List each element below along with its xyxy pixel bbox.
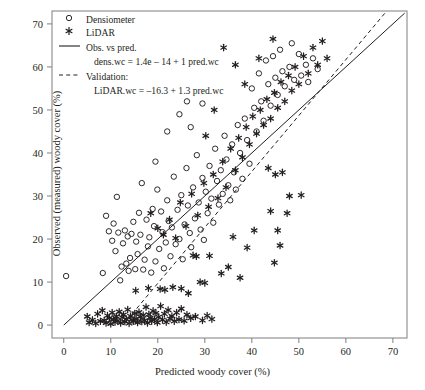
svg-text:70: 70 [33, 19, 44, 30]
legend-equation-validation: LiDAR.wc = –16.3 + 1.3 pred.wc [94, 85, 223, 96]
svg-text:30: 30 [200, 346, 211, 357]
y-axis-label: Observed (measured) woody cover (%) [51, 14, 62, 334]
svg-text:20: 20 [33, 234, 44, 245]
svg-text:40: 40 [33, 148, 44, 159]
svg-text:0: 0 [38, 320, 43, 331]
legend-equation-densiometer: dens.wc = 1.4e – 14 + 1 pred.wc [94, 56, 219, 67]
svg-text:20: 20 [153, 346, 164, 357]
legend-label-validation: Validation: [86, 71, 128, 82]
legend-markers [59, 15, 80, 75]
legend-label-obs-vs-pred: Obs. vs pred. [86, 42, 137, 53]
x-axis-label: Predicted woody cover (%) [0, 366, 425, 377]
svg-text:50: 50 [33, 105, 44, 116]
scatter-plot-figure: 010203040506070010203040506070 Predicted… [0, 0, 425, 390]
legend-label-densiometer: Densiometer [86, 14, 135, 25]
svg-text:60: 60 [341, 346, 352, 357]
svg-text:50: 50 [294, 346, 305, 357]
svg-text:30: 30 [33, 191, 44, 202]
svg-text:0: 0 [61, 346, 66, 357]
svg-text:10: 10 [33, 277, 44, 288]
svg-text:10: 10 [106, 346, 117, 357]
svg-text:40: 40 [247, 346, 258, 357]
svg-text:70: 70 [388, 346, 399, 357]
legend-label-lidar: LiDAR [86, 27, 115, 38]
svg-text:60: 60 [33, 62, 44, 73]
